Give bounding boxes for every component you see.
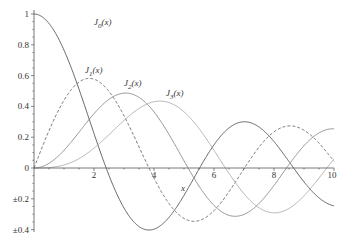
x-tick-label: 6 [212, 170, 217, 180]
y-tick-label: 0.8 [18, 40, 30, 50]
curve-label-j0: J0(x) [94, 17, 112, 30]
x-tick-label: 2 [92, 170, 97, 180]
y-ticks: 10.80.60.40.20±0.2±0.4 [13, 9, 34, 235]
y-tick-label: 1 [25, 9, 30, 19]
curve-label-j2: J2(x) [124, 78, 142, 91]
y-tick-label: 0.6 [18, 71, 30, 81]
x-tick-label: 10 [328, 170, 338, 180]
bessel-chart: 246810 10.80.60.40.20±0.2±0.4 J0(x)J1(x)… [0, 0, 354, 247]
y-tick-label: 0 [25, 163, 30, 173]
curve-label-j3: J3(x) [166, 88, 184, 101]
curve-label-j1: J1(x) [85, 65, 103, 78]
curve-labels: J0(x)J1(x)J2(x)J3(x) [85, 17, 184, 102]
y-tick-label: ±0.4 [13, 225, 30, 235]
y-tick-label: 0.2 [18, 132, 29, 142]
x-tick-label: 8 [272, 170, 277, 180]
x-axis-label: x [180, 183, 185, 193]
x-ticks: 246810 [49, 168, 337, 180]
y-tick-label: ±0.2 [13, 194, 29, 204]
curves-group [34, 14, 334, 230]
y-tick-label: 0.4 [18, 101, 30, 111]
curve-j0 [34, 14, 334, 230]
x-tick-label: 4 [152, 170, 157, 180]
curve-j1 [34, 78, 334, 221]
